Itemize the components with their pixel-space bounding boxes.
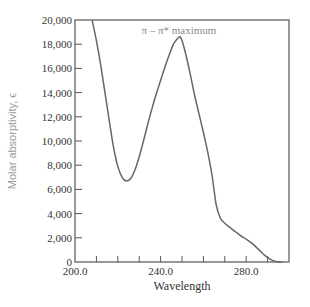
spectrum-line: [92, 20, 282, 262]
x-axis: 200.0240.0280.0: [63, 256, 268, 277]
x-tick-label: 200.0: [63, 265, 88, 277]
y-tick-label: 18,000: [42, 38, 73, 50]
plot-border: [75, 20, 289, 262]
x-tick-label: 280.0: [234, 265, 259, 277]
y-tick-label: 8,000: [47, 159, 72, 171]
y-tick-label: 12,000: [42, 111, 73, 123]
y-axis-title: Molar absorptivity, ϵ: [6, 93, 18, 189]
y-tick-label: 10,000: [42, 135, 73, 147]
y-tick-label: 6,000: [47, 183, 72, 195]
y-tick-label: 20,000: [42, 14, 73, 26]
absorption-chart: 02,0004,0006,0008,00010,00012,00014,0001…: [0, 0, 310, 307]
y-tick-label: 16,000: [42, 62, 73, 74]
x-axis-title: Wavelength: [153, 279, 210, 293]
x-tick-label: 240.0: [148, 265, 173, 277]
plot-frame: [75, 20, 289, 262]
y-tick-label: 14,000: [42, 87, 73, 99]
pi-pi-star-annotation: π – π* maximum: [141, 24, 216, 36]
y-tick-label: 4,000: [47, 208, 72, 220]
y-tick-label: 2,000: [47, 232, 72, 244]
y-axis: 02,0004,0006,0008,00010,00012,00014,0001…: [42, 14, 82, 268]
